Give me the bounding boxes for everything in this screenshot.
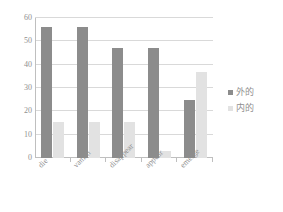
x-axis-category-labels: dievanishdisappearappearemerge	[35, 162, 213, 210]
y-axis-tick-labels: 0102030405060	[0, 18, 32, 158]
y-tick-label: 30	[2, 84, 32, 92]
x-label-cell: die	[35, 162, 71, 210]
y-tick-label: 0	[2, 154, 32, 162]
y-tick-label: 10	[2, 131, 32, 139]
legend-swatch-icon	[228, 106, 233, 111]
bar-disappear-外的	[112, 48, 123, 158]
x-label-cell: emerge	[177, 162, 213, 210]
legend-swatch-icon	[228, 90, 233, 95]
bars-layer	[35, 18, 213, 158]
y-tick-label: 60	[2, 14, 32, 22]
x-label-cell: appear	[142, 162, 178, 210]
bar-group-vanish	[71, 18, 107, 158]
bar-appear-外的	[148, 48, 159, 158]
legend-label: 内的	[236, 104, 254, 113]
y-tick-label: 50	[2, 37, 32, 45]
bar-group-emerge	[177, 18, 213, 158]
bar-die-外的	[41, 27, 52, 158]
bar-chart: 0102030405060 dievanishdisappearappearem…	[0, 0, 283, 212]
bar-group-appear	[142, 18, 178, 158]
legend-item-内的[interactable]: 内的	[228, 104, 280, 113]
legend-item-外的[interactable]: 外的	[228, 88, 280, 97]
legend-label: 外的	[236, 88, 254, 97]
bar-group-disappear	[106, 18, 142, 158]
chart-legend: 外的内的	[228, 88, 280, 120]
x-label-cell: vanish	[71, 162, 107, 210]
bar-die-内的	[53, 122, 64, 158]
bar-group-die	[35, 18, 71, 158]
bar-vanish-外的	[77, 27, 88, 158]
y-tick-label: 40	[2, 61, 32, 69]
bar-emerge-内的	[196, 72, 207, 158]
x-label-cell: disappear	[106, 162, 142, 210]
y-tick-label: 20	[2, 107, 32, 115]
